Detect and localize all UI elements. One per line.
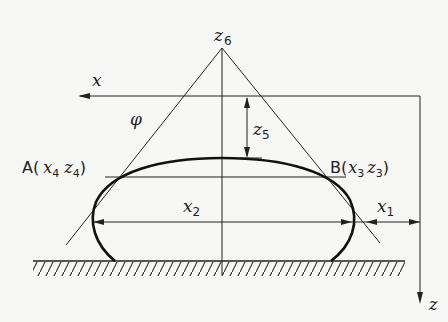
tangent-line-right [222, 48, 380, 243]
x-axis-label: x [92, 70, 102, 90]
x1-label: x1 [377, 196, 394, 219]
drop-profile [93, 158, 355, 261]
diagram-svg: z6 x z φ z5 x2 x1 A(x4z4) B(x3z3) [0, 0, 448, 322]
z-axis [417, 96, 423, 304]
point-a-label: A(x4z4) [22, 158, 86, 180]
ground-surface [33, 261, 405, 276]
z5-label: z5 [252, 119, 270, 142]
point-b-label: B(x3z3) [330, 158, 389, 180]
angle-phi-label: φ [130, 109, 142, 129]
apex-label: z6 [213, 25, 232, 48]
x2-label: x2 [183, 196, 200, 219]
drop-diagram: z6 x z φ z5 x2 x1 A(x4z4) B(x3z3) [0, 0, 448, 322]
z-axis-label: z [428, 295, 438, 314]
x-axis [78, 93, 420, 99]
